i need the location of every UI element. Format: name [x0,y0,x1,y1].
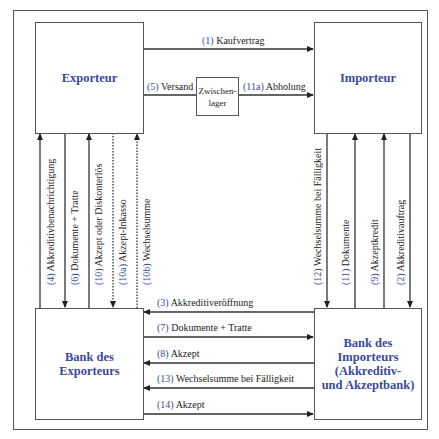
edge-13-number: (13) [157,373,174,384]
edge-6-text: Dokumente + Tratte [69,190,80,271]
edge-4-text: Akkreditivbenachrichtigung [45,159,56,272]
bank-importeur-line1: Bank des [344,336,393,350]
edge-11a-number: (11a) [243,81,264,92]
zwischenlager-box: Zwischen- lager [196,77,239,116]
bank-exporteur-line1: Bank des [65,350,114,364]
edge-12-label: (12) Wechselsumme bei Fälligkeit [312,148,324,285]
edge-13-label: (13) Wechselsumme bei Fälligkeit [157,373,294,385]
edge-7-label: (7) Dokumente + Tratte [157,322,252,334]
edge-10-text: Akzept oder Diskonterlös [93,164,104,267]
bank-exporteur-label: Bank des Exporteurs [59,350,119,378]
edge-6-number: (6) [69,273,80,285]
bank-exporteur-box: Bank des Exporteurs [35,308,144,420]
edge-2-label: (2) Akkreditivauftrag [395,200,407,285]
edge-14-label: (14) Akzept [157,399,205,411]
edge-9-text: Akzeptkredit [369,219,380,271]
exporteur-label: Exporteur [62,71,118,85]
edge-13-text: Wechselsumme bei Fälligkeit [176,373,294,384]
edge-6-label: (6) Dokumente + Tratte [69,190,81,285]
edge-11a-label: (11a) Abholung [243,81,306,93]
edge-10b-label: (10b) Wechselsumme [141,198,153,285]
bank-exporteur-line2: Exporteurs [59,364,119,378]
edge-9-label: (9) Akzeptkredit [369,219,381,285]
edge-7-text: Dokumente + Tratte [171,322,252,333]
edge-1-number: (1) [202,35,214,46]
edge-8-label: (8) Akzept [157,348,200,360]
edge-11a-text: Abholung [266,81,306,92]
edge-10b-text: Wechselsumme [141,198,152,261]
edge-8-text: Akzept [171,348,200,359]
edge-11-text: Dokumente [340,220,351,267]
bank-importeur-line4: und Akzeptbank) [322,378,415,392]
edge-10a-text: Akzept-Inkasso [117,199,128,262]
importeur-box: Importeur [314,22,422,134]
edge-5-number: (5) [147,81,159,92]
edge-10b-number: (10b) [141,263,152,285]
edge-1-label: (1) Kaufvertrag [202,35,264,47]
exporteur-box: Exporteur [35,22,144,134]
edge-3-text: Akkreditiveröffnung [171,297,254,308]
bank-importeur-box: Bank des Importeurs (Akkreditiv- und Akz… [314,308,422,420]
edge-14-text: Akzept [176,399,205,410]
edge-3-label: (3) Akkreditiveröffnung [157,297,253,309]
edge-11-label: (11) Dokumente [340,220,352,285]
edge-7-number: (7) [157,322,169,333]
edge-10a-number: (10a) [117,264,128,285]
edge-10a-label: (10a) Akzept-Inkasso [117,199,129,285]
edge-4-number: (4) [45,273,56,285]
zwischenlager-line2: lager [209,98,227,108]
edge-2-text: Akkreditivauftrag [395,200,406,272]
bank-importeur-line2: Importeurs [337,350,398,364]
edge-10-label: (10) Akzept oder Diskonterlös [93,164,105,285]
edge-12-text: Wechselsumme bei Fälligkeit [312,148,323,266]
edge-9-number: (9) [369,273,380,285]
importeur-label: Importeur [340,71,396,85]
edge-8-number: (8) [157,348,169,359]
edge-10-number: (10) [93,268,104,285]
edge-1-text: Kaufvertrag [216,35,264,46]
edge-11-number: (11) [340,269,351,285]
edge-5-label: (5) Versand [147,81,193,93]
bank-importeur-line3: (Akkreditiv- [335,364,401,378]
zwischenlager-line1: Zwischen- [199,86,237,96]
bank-importeur-label: Bank des Importeurs (Akkreditiv- und Akz… [322,336,415,392]
edge-14-number: (14) [157,399,174,410]
edge-2-number: (2) [395,273,406,285]
edge-3-number: (3) [157,297,169,308]
zwischenlager-label: Zwischen- lager [199,85,237,109]
edge-4-label: (4) Akkreditivbenachrichtigung [45,159,57,285]
edge-12-number: (12) [312,268,323,285]
edge-5-text: Versand [161,81,193,92]
